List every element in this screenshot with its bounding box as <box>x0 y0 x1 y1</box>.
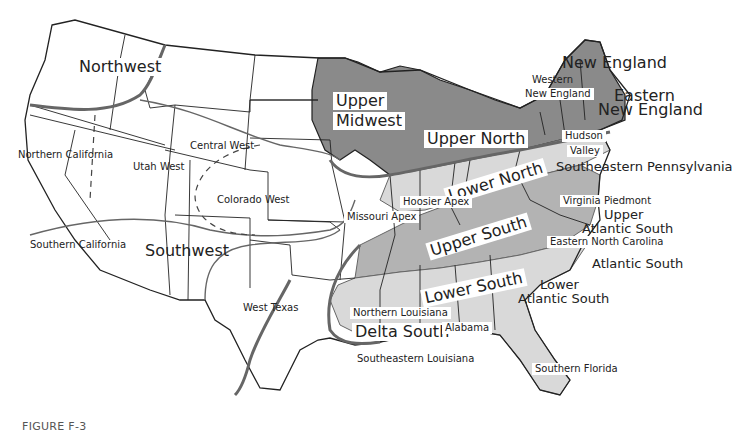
label-northwest: Northwest <box>76 58 164 76</box>
label-virginia-piedmont: Virginia Piedmont <box>560 195 654 207</box>
label-hoosier-apex: Hoosier Apex <box>400 196 472 208</box>
label-eastern-north-carolina: Eastern North Carolina <box>547 236 666 248</box>
label-upper-atlantic-south-2: Atlantic South <box>582 222 673 235</box>
label-southern-florida: Southern Florida <box>532 363 621 375</box>
label-hudson-valley-2: Valley <box>567 145 603 157</box>
label-eastern-new-england-2: New England <box>598 102 703 118</box>
label-colorado-west: Colorado West <box>217 195 289 205</box>
label-southeastern-pennsylvania: Southeastern Pennsylvania <box>556 160 733 173</box>
label-western-new-england-1: Western <box>532 75 573 85</box>
label-southeastern-louisiana: Southeastern Louisiana <box>357 354 474 364</box>
label-lower-atlantic-south-1: Lower <box>540 278 579 291</box>
label-northern-louisiana: Northern Louisiana <box>350 307 451 319</box>
label-west-texas: West Texas <box>243 303 298 313</box>
label-lower-atlantic-south-2: Atlantic South <box>518 292 609 305</box>
label-southwest: Southwest <box>145 243 229 259</box>
figure-caption: FIGURE F-3 <box>22 420 87 433</box>
label-central-west: Central West <box>190 141 254 151</box>
label-upper-atlantic-south-1: Upper <box>604 208 643 221</box>
label-southern-california: Southern California <box>30 240 126 250</box>
label-delta-south: Delta South <box>352 323 452 341</box>
dialect-boundaries-thin <box>30 100 355 300</box>
label-atlantic-south: Atlantic South <box>592 257 683 270</box>
label-new-england: New England <box>562 55 667 71</box>
label-upper-north: Upper North <box>424 130 528 148</box>
label-northern-california: Northern California <box>18 150 113 160</box>
label-alabama: Alabama <box>442 322 492 334</box>
label-upper-midwest-2: Midwest <box>333 112 405 130</box>
label-upper-midwest-1: Upper <box>333 92 387 110</box>
label-hudson-valley-1: Hudson <box>562 130 606 142</box>
label-missouri-apex: Missouri Apex <box>344 211 419 223</box>
label-western-new-england-2: New England <box>522 88 594 100</box>
label-utah-west: Utah West <box>133 162 184 172</box>
